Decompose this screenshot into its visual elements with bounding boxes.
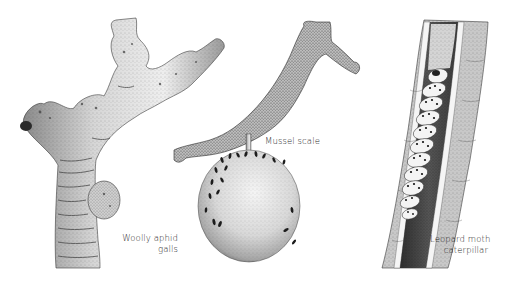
label-line: Mussel scale	[265, 136, 320, 147]
label-woolly-aphid-galls: Woolly aphid galls	[118, 233, 178, 255]
label-line: Woolly aphid	[118, 233, 178, 244]
label-leopard-moth-caterpillar: Leopard moth caterpillar	[430, 234, 488, 256]
caterpillar-head	[432, 70, 440, 76]
label-line: galls	[118, 244, 178, 255]
label-line: Leopard moth	[430, 234, 488, 245]
gall-knob	[20, 121, 32, 131]
illustration-canvas: Woolly aphid galls Mussel scale Leopard …	[0, 0, 529, 282]
woolly-aphid-branch	[20, 18, 224, 268]
apple	[198, 150, 300, 262]
label-mussel-scale: Mussel scale	[265, 136, 320, 147]
leopard-moth-branch	[382, 20, 488, 268]
label-line: caterpillar	[430, 245, 488, 256]
